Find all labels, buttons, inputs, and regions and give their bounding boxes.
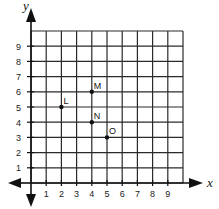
x-tick-label: 5 bbox=[104, 189, 109, 199]
y-tick-label: 2 bbox=[16, 148, 21, 158]
x-tick-label: 3 bbox=[74, 189, 79, 199]
point-label-n: N bbox=[94, 111, 101, 121]
y-tick-label: 4 bbox=[16, 118, 21, 128]
y-axis-arrow-down-icon bbox=[26, 194, 36, 207]
y-tick-label: 5 bbox=[16, 103, 21, 113]
y-tick-label: 6 bbox=[16, 87, 21, 97]
y-axis-title: y bbox=[21, 0, 29, 13]
x-tick-label: 6 bbox=[120, 189, 125, 199]
y-tick-label: 3 bbox=[16, 133, 21, 143]
y-tick-label: 7 bbox=[16, 72, 21, 82]
grid bbox=[31, 31, 183, 183]
x-tick-label: 4 bbox=[89, 189, 94, 199]
x-tick-label: 7 bbox=[135, 189, 140, 199]
x-axis-arrow-right-icon bbox=[189, 178, 203, 188]
y-tick-label: 1 bbox=[16, 163, 21, 173]
coordinate-plane: y x 123456789123456789 LMNO bbox=[0, 0, 219, 209]
y-tick-label: 8 bbox=[16, 57, 21, 67]
point-label-l: L bbox=[63, 96, 68, 106]
x-tick-label: 1 bbox=[44, 189, 49, 199]
x-tick-label: 2 bbox=[59, 189, 64, 199]
x-axis-arrow-left-icon bbox=[8, 178, 21, 188]
y-tick-label: 9 bbox=[16, 42, 21, 52]
x-tick-label: 8 bbox=[150, 189, 155, 199]
point-label-m: M bbox=[94, 81, 102, 91]
x-tick-label: 9 bbox=[165, 189, 170, 199]
x-axis-title: x bbox=[206, 175, 213, 190]
point-label-o: O bbox=[109, 126, 116, 136]
